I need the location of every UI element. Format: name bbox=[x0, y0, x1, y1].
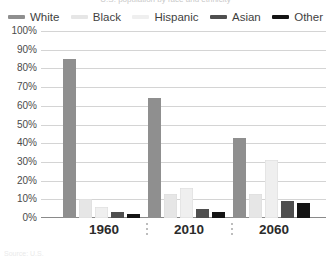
bar-2010-asian[interactable] bbox=[196, 209, 209, 218]
legend-label: Asian bbox=[232, 11, 261, 23]
bar-group-1960 bbox=[63, 31, 145, 218]
legend-item-hispanic[interactable]: Hispanic bbox=[132, 11, 198, 23]
x-axis-label-2010: 2010 bbox=[148, 222, 230, 238]
bar-2060-black[interactable] bbox=[249, 194, 262, 218]
x-axis-label-1960: 1960 bbox=[63, 222, 145, 238]
legend-item-white[interactable]: White bbox=[8, 11, 59, 23]
legend-swatch-icon bbox=[272, 15, 289, 19]
plot-area bbox=[41, 31, 326, 218]
legend-item-other[interactable]: Other bbox=[272, 11, 323, 23]
bar-2060-asian[interactable] bbox=[281, 201, 294, 218]
bar-2010-black[interactable] bbox=[164, 194, 177, 218]
x-axis-label-2060: 2060 bbox=[233, 222, 315, 238]
legend-swatch-icon bbox=[8, 15, 25, 19]
bar-2060-hispanic[interactable] bbox=[265, 160, 278, 218]
x-axis: 196020102060 bbox=[41, 222, 326, 242]
bar-group-2060 bbox=[233, 31, 315, 218]
chart-legend: WhiteBlackHispanicAsianOther bbox=[4, 9, 327, 25]
legend-swatch-icon bbox=[71, 15, 88, 19]
chart-title: U.S. population by race and ethnicity bbox=[0, 0, 331, 4]
legend-item-black[interactable]: Black bbox=[71, 11, 121, 23]
legend-item-asian[interactable]: Asian bbox=[210, 11, 261, 23]
legend-label: White bbox=[30, 11, 59, 23]
bar-1960-other[interactable] bbox=[127, 214, 140, 218]
y-axis-tick-label: 50% bbox=[0, 120, 37, 130]
bar-1960-white[interactable] bbox=[63, 59, 76, 218]
legend-label: Hispanic bbox=[154, 11, 198, 23]
y-axis-tick-label: 100% bbox=[0, 26, 37, 36]
bar-2010-white[interactable] bbox=[148, 98, 161, 218]
y-axis-tick-label: 0% bbox=[0, 213, 37, 223]
bar-2010-hispanic[interactable] bbox=[180, 188, 193, 218]
legend-label: Other bbox=[294, 11, 323, 23]
y-axis-tick-label: 90% bbox=[0, 45, 37, 55]
y-axis-tick-label: 40% bbox=[0, 138, 37, 148]
legend-swatch-icon bbox=[210, 15, 227, 19]
bar-group-2010 bbox=[148, 31, 230, 218]
bar-1960-black[interactable] bbox=[79, 199, 92, 218]
y-axis-tick-label: 20% bbox=[0, 176, 37, 186]
bar-2010-other[interactable] bbox=[212, 212, 225, 218]
y-axis-tick-label: 10% bbox=[0, 194, 37, 204]
y-axis-tick-label: 80% bbox=[0, 63, 37, 73]
bar-2060-white[interactable] bbox=[233, 138, 246, 218]
y-axis-tick-label: 60% bbox=[0, 101, 37, 111]
bar-2060-other[interactable] bbox=[297, 203, 310, 218]
y-axis-tick-label: 30% bbox=[0, 157, 37, 167]
y-axis: 100%90%80%70%60%50%40%30%20%10%0% bbox=[0, 31, 37, 218]
bar-1960-hispanic[interactable] bbox=[95, 207, 108, 218]
y-axis-tick-label: 70% bbox=[0, 82, 37, 92]
bar-chart: U.S. population by race and ethnicity Wh… bbox=[0, 0, 331, 256]
legend-label: Black bbox=[93, 11, 121, 23]
bar-1960-asian[interactable] bbox=[111, 212, 124, 218]
chart-source-note: Source: U.S. bbox=[4, 250, 44, 256]
legend-swatch-icon bbox=[132, 15, 149, 19]
